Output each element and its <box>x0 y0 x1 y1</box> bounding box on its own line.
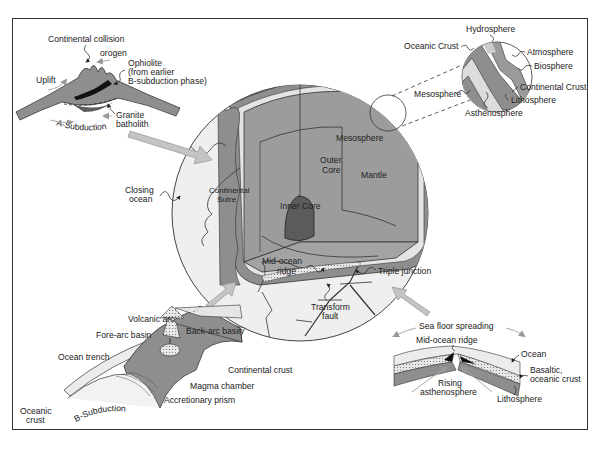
label-mid-ocean-ridge-2: ridge <box>277 266 296 276</box>
label-continental-collision: Continental collision <box>48 34 125 44</box>
label-back-arc-basin: Back-arc basin <box>186 326 243 336</box>
label-continental-crust-inset: Continental Crust <box>520 82 587 92</box>
label-b-subduction: B-Subduction <box>72 403 126 424</box>
label-mantle: Mantle <box>361 170 387 180</box>
label-atmosphere: Atmosphere <box>527 47 574 57</box>
label-mid-ocean-ridge-inset: Mid-ocean ridge <box>416 335 478 345</box>
label-ophiolite-3: B-subduction phase) <box>128 76 207 86</box>
label-granite-2: batholith <box>116 119 149 129</box>
label-mesosphere-globe: Mesosphere <box>336 133 384 143</box>
zoom-guide-line-bottom <box>402 100 470 126</box>
label-mesosphere-inset: Mesosphere <box>414 89 462 99</box>
label-lithosphere-spreading: Lithosphere <box>497 394 542 404</box>
label-rising-2: asthenosphere <box>420 387 477 397</box>
label-accretionary-prism: Accretionary prism <box>164 395 235 405</box>
label-transform-fault-2: fault <box>322 311 339 321</box>
label-a-subduction: A-Subduction <box>55 117 107 132</box>
label-outer-core-2: Core <box>322 165 341 175</box>
earth-tectonics-diagram: Mesosphere Outer Core Mantle Inner Core … <box>0 0 600 449</box>
label-closing-ocean-2: ocean <box>129 194 153 204</box>
label-uplift: Uplift <box>36 75 56 85</box>
label-volcanic-arc: Volcanic arc <box>128 314 175 324</box>
label-triple-junction: Triple junction <box>378 266 431 276</box>
inset-sea-floor-spreading: Sea floor spreading Mid-ocean ridge Ocea… <box>394 321 581 404</box>
label-lithosphere-inset: Lithosphere <box>511 95 556 105</box>
label-fore-arc-basin: Fore-arc basin <box>96 330 152 340</box>
label-continental-sutre-2: Sutre <box>217 195 237 204</box>
label-inner-core: Inner Core <box>280 201 321 211</box>
label-mid-ocean-ridge-1: Mid-ocean <box>262 256 302 266</box>
label-basaltic-2: oceanic crust <box>530 374 581 384</box>
label-outer-core-1: Outer <box>320 155 342 165</box>
label-oceanic-crust: Oceanic Crust <box>404 41 459 51</box>
label-ocean-trench: Ocean trench <box>58 352 110 362</box>
label-oceanic-crust-sub-2: crust <box>26 415 45 425</box>
label-ocean: Ocean <box>521 349 547 359</box>
label-sea-floor-spreading: Sea floor spreading <box>419 321 494 331</box>
label-orogen: orogen <box>100 48 127 58</box>
label-hydrosphere: Hydrosphere <box>466 24 515 34</box>
label-continental-sutre-1: Continental <box>209 186 250 195</box>
label-magma-chamber: Magma chamber <box>190 381 255 391</box>
label-continental-crust-sub: Continental crust <box>228 365 293 375</box>
inset-earth-spheres: Hydrosphere Oceanic Crust Atmosphere Bio… <box>404 24 587 118</box>
inset-continental-collision: Continental collision orogen Ophiolite (… <box>16 34 207 132</box>
label-asthenosphere-inset: Asthenosphere <box>465 108 523 118</box>
label-biosphere: Biosphere <box>534 61 573 71</box>
